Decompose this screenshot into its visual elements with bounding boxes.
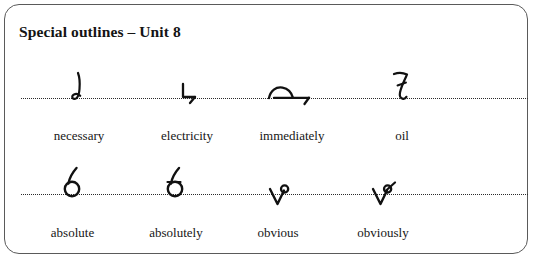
outline-item-obvious: obvious <box>228 155 328 245</box>
outline-word-label: obvious <box>228 225 328 241</box>
shorthand-outline-immediately-icon <box>263 60 321 106</box>
outline-word-label: absolute <box>21 225 124 241</box>
shorthand-outline-absolute-icon <box>54 155 92 205</box>
page-title: Special outlines – Unit 8 <box>19 23 181 41</box>
outline-word-label: electricity <box>137 128 237 144</box>
shorthand-outline-electricity-icon <box>170 60 204 106</box>
outline-item-necessary: necessary <box>21 60 137 150</box>
outline-item-obviously: obviously <box>328 155 438 245</box>
shorthand-outline-absolutely-icon <box>156 155 196 205</box>
outline-word-label: absolutely <box>124 225 228 241</box>
outline-row-1: necessary electricity <box>21 60 528 150</box>
page-root: Special outlines – Unit 8 necessary <box>0 0 534 261</box>
outline-word-label: necessary <box>21 128 137 144</box>
outline-item-oil: oil <box>347 60 457 150</box>
shorthand-outline-obvious-icon <box>260 155 296 205</box>
outline-word-label: obviously <box>328 225 438 241</box>
outline-row-2: absolute absolutely <box>21 155 528 245</box>
outline-word-label: oil <box>347 128 457 144</box>
outline-word-label: immediately <box>237 128 347 144</box>
shorthand-outline-obviously-icon <box>363 155 403 205</box>
outline-item-absolute: absolute <box>21 155 124 245</box>
outline-item-absolutely: absolutely <box>124 155 228 245</box>
outline-item-electricity: electricity <box>137 60 237 150</box>
exercise-card: Special outlines – Unit 8 necessary <box>4 4 528 254</box>
outline-item-immediately: immediately <box>237 60 347 150</box>
shorthand-outline-oil-icon <box>386 60 418 106</box>
shorthand-outline-necessary-icon <box>59 60 99 106</box>
